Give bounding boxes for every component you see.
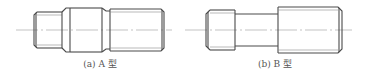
caption-type-b: (b) B 型 bbox=[258, 57, 292, 70]
technical-drawing bbox=[0, 0, 365, 75]
stud-type-b-drawing bbox=[185, 7, 352, 53]
stud-type-a-drawing bbox=[16, 8, 172, 52]
caption-type-a: (a) A 型 bbox=[83, 57, 117, 70]
stud-drawings: (a) A 型 (b) B 型 bbox=[0, 0, 365, 75]
